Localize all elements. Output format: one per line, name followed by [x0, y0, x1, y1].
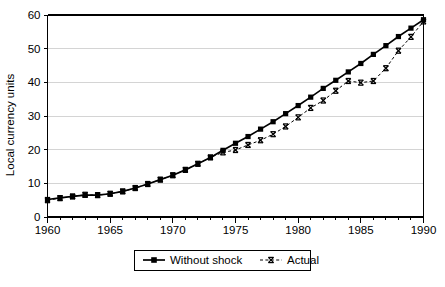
data-point-marker [158, 177, 163, 182]
y-tick-label: 30 [28, 110, 41, 122]
data-point-marker [57, 195, 62, 200]
data-point-marker [45, 197, 50, 202]
series-actual [45, 19, 426, 203]
y-axis-tick-labels: 0102030405060 [28, 9, 41, 223]
chart-figure: 0102030405060 19601965197019751980198519… [0, 0, 445, 287]
x-tick-label: 1965 [97, 224, 123, 236]
data-point-marker [371, 52, 376, 57]
data-point-marker [70, 194, 75, 199]
data-point-marker [283, 124, 288, 129]
data-point-marker [208, 155, 213, 160]
data-point-marker [358, 61, 363, 66]
y-tick-label: 60 [28, 9, 41, 21]
data-point-marker [145, 181, 150, 186]
data-point-marker [170, 173, 175, 178]
y-axis-title: Local currency units [4, 74, 16, 177]
x-tick-label: 1980 [285, 224, 311, 236]
data-point-marker [408, 34, 413, 39]
data-point-marker [296, 103, 301, 108]
data-point-marker [333, 78, 338, 83]
data-point-marker [233, 141, 238, 146]
data-point-marker [333, 88, 338, 93]
data-point-marker [83, 193, 88, 198]
data-point-marker [183, 167, 188, 172]
x-axis-major-ticks [48, 217, 424, 223]
data-point-marker [346, 69, 351, 74]
data-point-marker [108, 191, 113, 196]
grid-lines [48, 15, 424, 183]
legend-marker-square [151, 257, 157, 263]
data-point-marker [271, 132, 276, 137]
data-point-marker [195, 161, 200, 166]
legend-label: Actual [287, 254, 319, 266]
x-tick-label: 1960 [35, 224, 61, 236]
y-tick-label: 40 [28, 76, 41, 88]
y-tick-label: 10 [28, 177, 41, 189]
data-point-marker [120, 189, 125, 194]
data-point-marker [408, 26, 413, 31]
chart-legend: Without shockActual [134, 250, 319, 270]
x-tick-label: 1975 [223, 224, 249, 236]
data-point-marker [220, 148, 225, 153]
y-tick-label: 20 [28, 144, 41, 156]
x-tick-label: 1970 [160, 224, 186, 236]
x-tick-label: 1985 [348, 224, 374, 236]
series-without-shock [45, 17, 426, 202]
data-point-marker [321, 86, 326, 91]
data-point-marker [308, 95, 313, 100]
data-point-marker [283, 111, 288, 116]
x-axis-tick-labels: 1960196519701975198019851990 [35, 224, 437, 236]
data-point-marker [258, 127, 263, 132]
data-point-marker [396, 34, 401, 39]
legend-label: Without shock [170, 254, 242, 266]
data-point-marker [258, 138, 263, 143]
y-tick-label: 50 [28, 43, 41, 55]
y-axis-ticks [44, 15, 48, 217]
data-point-marker [245, 134, 250, 139]
x-tick-label: 1990 [411, 224, 437, 236]
data-point-marker [246, 142, 251, 147]
data-point-marker [95, 193, 100, 198]
data-point-marker [133, 185, 138, 190]
data-point-marker [308, 105, 313, 110]
series-layer [45, 17, 426, 203]
data-point-marker [271, 119, 276, 124]
y-tick-label: 0 [34, 211, 40, 223]
data-point-marker [321, 98, 326, 103]
data-point-marker [383, 43, 388, 48]
line-chart: 0102030405060 19601965197019751980198519… [0, 0, 445, 287]
data-point-marker [383, 66, 388, 71]
data-point-marker [421, 17, 426, 22]
